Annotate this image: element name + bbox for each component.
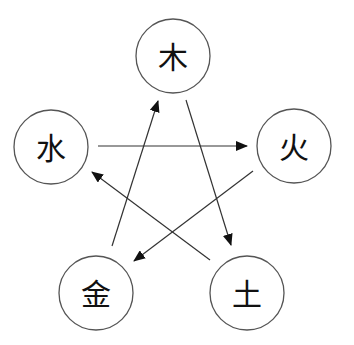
five-elements-diagram: 木水火金土 [0,0,354,345]
node-earth: 土 [210,256,284,330]
arrow-metal-to-wood [112,101,158,246]
node-fire: 火 [257,109,331,183]
edges-group [92,100,253,261]
node-label: 水 [36,131,66,166]
arrow-earth-to-water [92,172,210,260]
node-label: 火 [279,130,309,165]
node-metal: 金 [59,256,133,330]
node-water: 水 [14,110,88,184]
node-wood: 木 [136,19,210,93]
node-label: 木 [158,40,188,75]
nodes-group: 木水火金土 [14,19,331,330]
node-label: 土 [232,277,262,312]
node-label: 金 [81,277,111,312]
arrow-wood-to-earth [186,100,231,245]
